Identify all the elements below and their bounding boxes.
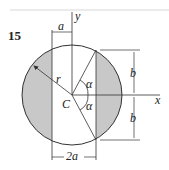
- problem-number: 15: [8, 28, 22, 43]
- upper-angle-line: [72, 50, 96, 95]
- right-shaded-segment: [96, 0, 169, 170]
- shaded-regions: [0, 0, 169, 170]
- center-label: C: [62, 97, 71, 111]
- lower-angle-label: α: [86, 99, 93, 113]
- radius-label: r: [56, 72, 61, 86]
- diagram: 15 y x r C α α a 2a b b: [0, 0, 169, 170]
- dimension-b-lower-label: b: [130, 111, 136, 125]
- x-axis-label: x: [154, 93, 161, 107]
- left-shaded-segment: [0, 0, 52, 170]
- y-axis-label: y: [74, 9, 81, 23]
- upper-angle-label: α: [86, 77, 93, 91]
- dimension-a-label: a: [58, 19, 64, 33]
- lower-angle-line: [72, 95, 96, 140]
- dimension-b-upper-label: b: [130, 66, 136, 80]
- dimension-2a-label: 2a: [66, 149, 78, 163]
